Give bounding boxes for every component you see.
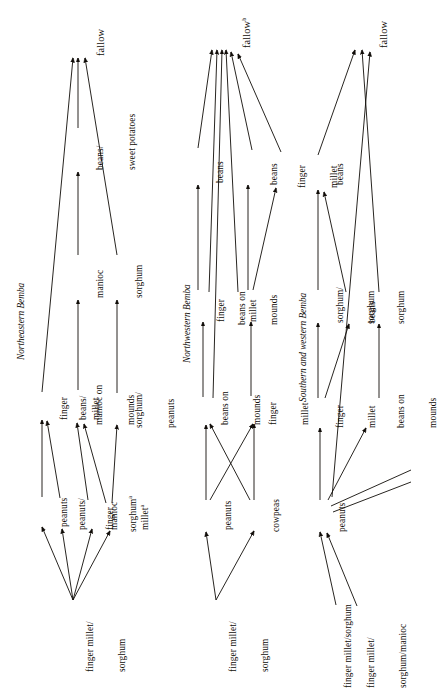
edge-nw-beans1-fallow [198,50,212,148]
edge-ne-sorga-sorgpea [112,425,117,503]
node-ne-sorghum: sorghum [113,265,166,298]
node-sw-src2: finger millet/ sorghum/manioc [345,624,430,688]
edge-nw-bom2-fm3 [253,188,276,290]
section-title-northwestern: Northwestern Bemba [182,284,192,363]
node-nw-peanuts: peanuts [202,501,255,530]
footnote-marker-a: a [126,496,133,499]
node-nw-beans-on-mounds-2: beans on mounds [216,291,301,325]
edge-nw-bom1-fallow [213,50,222,398]
node-sw-beans-on-mounds: beans on mounds [375,394,441,428]
edge-ne-fm-fallow [42,58,73,392]
edge-sw-sorg1-beans [324,192,346,292]
edge-sw-src2-peanuts [327,533,357,606]
node-sw-fallow: fallow [358,21,411,48]
node-ne-sorghum-peanuts: sorghum/ peanuts [113,392,198,428]
edge-sw-peanuts-bom [328,428,366,500]
node-sw-peanuts: peanuts [316,503,369,532]
footnote-marker-b: b [240,18,247,21]
node-nw-beans-1: beans [194,161,247,183]
node-nw-fallow: fallowb [218,18,274,48]
node-nw-cowpeas: cowpeas [250,499,303,532]
edge-sw-src1-peanuts [320,532,336,605]
edge-nw-src-cowpeas [216,531,254,600]
edge-sw-beans-fallow [318,50,355,155]
node-sw-sorghum-2: sorghum [375,291,428,324]
node-ne-fallow: fallow [75,29,128,56]
node-nw-src: finger millet/ sorghum [207,621,292,672]
edge-ne-src-peanman [62,529,73,600]
edge-nw-src-peanuts [206,532,216,600]
edge-ne-src-fma [73,529,92,600]
edge-ne-src-sorga [73,531,110,600]
edge-sw-peanuts-leader-1 [331,470,411,506]
edge-ne-src-peanuts [42,527,73,600]
node-ne-src: finger millet/ sorghum [64,621,149,672]
edge-sw-peanuts-fallow [332,52,370,497]
node-ne-sorghum-a: sorghuma [104,496,160,532]
node-ne-beans-sweet-potatoes: beans/ sweet potatoes [74,114,159,170]
edge-ne-fma-manioc [77,423,88,500]
edge-nw-beans2-fallow [231,52,252,150]
section-title-northeastern: Northeastern Bemba [16,283,26,360]
edge-ne-sorga-manioc [84,424,106,503]
edge-nw-fm3-fallow [238,54,281,152]
node-sw-beans: beans [314,163,367,185]
edge-ne-peanman-fm [47,421,60,498]
